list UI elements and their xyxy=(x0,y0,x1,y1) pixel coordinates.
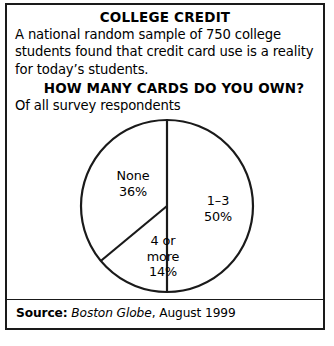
source-date: , August 1999 xyxy=(152,306,236,320)
infographic-inner: COLLEGE CREDIT A national random sample … xyxy=(7,5,323,328)
pie-label-four-or-more: 4 or more 14% xyxy=(133,233,193,280)
pie-label-four-or-more-value: 14% xyxy=(133,264,193,280)
chart-heading: HOW MANY CARDS DO YOU OWN? xyxy=(25,80,323,96)
pie-label-none-value: 36% xyxy=(102,184,164,200)
infographic-panel: COLLEGE CREDIT A national random sample … xyxy=(5,3,325,330)
pie-label-one-to-three: 1–3 50% xyxy=(187,193,249,224)
pie-label-one-to-three-value: 50% xyxy=(187,209,249,225)
pie-label-none-name: None xyxy=(102,168,164,184)
chart-subheading: Of all survey respondents xyxy=(15,98,180,113)
source-line: Source: Boston Globe, August 1999 xyxy=(16,306,236,320)
pie-chart: None 36% 1–3 50% 4 or more 14% xyxy=(7,115,323,297)
page-title: COLLEGE CREDIT xyxy=(7,9,323,25)
source-publication: Boston Globe xyxy=(71,306,151,320)
pie-label-four-or-more-name1: 4 or xyxy=(133,233,193,249)
footer-divider xyxy=(7,299,323,300)
intro-paragraph: A national random sample of 750 college … xyxy=(15,26,317,78)
source-label: Source: xyxy=(16,306,68,320)
pie-label-one-to-three-name: 1–3 xyxy=(187,193,249,209)
pie-label-none: None 36% xyxy=(102,168,164,199)
pie-label-four-or-more-name2: more xyxy=(133,249,193,265)
